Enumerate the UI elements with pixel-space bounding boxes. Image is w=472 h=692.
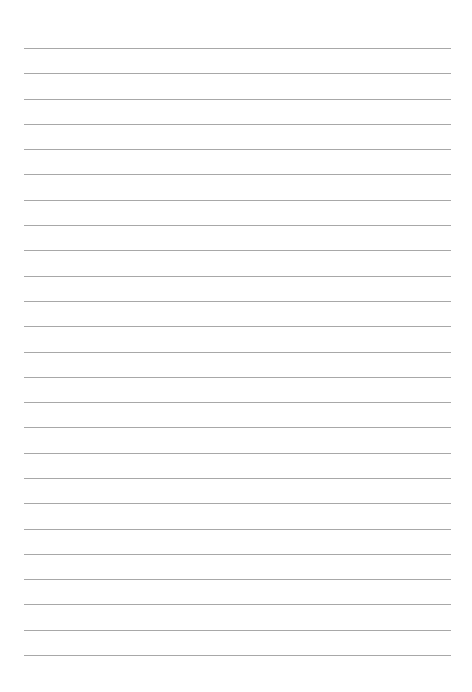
ruled-line <box>24 301 451 302</box>
ruled-line <box>24 427 451 428</box>
ruled-line <box>24 529 451 530</box>
ruled-line <box>24 200 451 201</box>
ruled-line <box>24 377 451 378</box>
ruled-line <box>24 554 451 555</box>
ruled-line <box>24 655 451 656</box>
ruled-line <box>24 503 451 504</box>
ruled-line <box>24 174 451 175</box>
ruled-line <box>24 326 451 327</box>
ruled-line <box>24 604 451 605</box>
ruled-line <box>24 48 451 49</box>
ruled-line <box>24 149 451 150</box>
ruled-line <box>24 579 451 580</box>
ruled-line <box>24 276 451 277</box>
ruled-line <box>24 453 451 454</box>
ruled-line <box>24 630 451 631</box>
ruled-line <box>24 352 451 353</box>
ruled-line <box>24 478 451 479</box>
ruled-line <box>24 225 451 226</box>
ruled-line <box>24 73 451 74</box>
ruled-line <box>24 99 451 100</box>
lined-paper-page <box>0 0 472 692</box>
ruled-line <box>24 402 451 403</box>
ruled-line <box>24 124 451 125</box>
ruled-line <box>24 250 451 251</box>
